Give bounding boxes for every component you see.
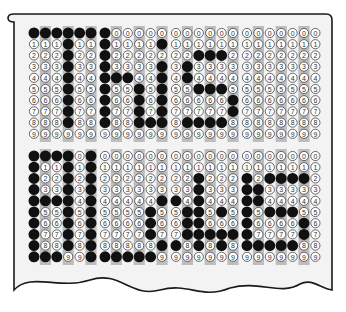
bubble-filled[interactable]	[135, 96, 144, 105]
bubble-filled[interactable]	[157, 107, 166, 116]
bubble-filled[interactable]	[100, 73, 109, 82]
bubble-filled[interactable]	[277, 241, 286, 250]
bubble-filled[interactable]	[265, 207, 274, 216]
bubble-filled[interactable]	[157, 196, 166, 205]
bubble-filled[interactable]	[277, 174, 286, 183]
bubble-filled[interactable]	[29, 241, 38, 250]
bubble-filled[interactable]	[217, 241, 226, 250]
bubble-filled[interactable]	[254, 196, 263, 205]
bubble-filled[interactable]	[194, 84, 203, 93]
bubble-filled[interactable]	[183, 62, 192, 71]
bubble-filled[interactable]	[183, 219, 192, 228]
bubble-filled[interactable]	[194, 219, 203, 228]
bubble-filled[interactable]	[100, 40, 109, 49]
bubble-filled[interactable]	[100, 62, 109, 71]
bubble-filled[interactable]	[100, 96, 109, 105]
bubble-filled[interactable]	[228, 230, 237, 239]
bubble-filled[interactable]	[86, 151, 95, 160]
bubble-filled[interactable]	[100, 118, 109, 127]
bubble-filled[interactable]	[146, 207, 155, 216]
bubble-filled[interactable]	[100, 28, 109, 37]
bubble-filled[interactable]	[41, 252, 50, 261]
bubble-filled[interactable]	[157, 96, 166, 105]
bubble-filled[interactable]	[64, 185, 73, 194]
bubble-filled[interactable]	[217, 207, 226, 216]
bubble-filled[interactable]	[194, 241, 203, 250]
bubble-filled[interactable]	[64, 107, 73, 116]
bubble-filled[interactable]	[41, 28, 50, 37]
bubble-filled[interactable]	[64, 73, 73, 82]
bubble-filled[interactable]	[183, 118, 192, 127]
bubble-filled[interactable]	[64, 174, 73, 183]
bubble-filled[interactable]	[135, 84, 144, 93]
bubble-filled[interactable]	[29, 163, 38, 172]
bubble-filled[interactable]	[41, 151, 50, 160]
bubble-filled[interactable]	[206, 84, 215, 93]
bubble-filled[interactable]	[52, 151, 61, 160]
bubble-filled[interactable]	[242, 219, 251, 228]
bubble-filled[interactable]	[183, 73, 192, 82]
bubble-filled[interactable]	[64, 40, 73, 49]
bubble-filled[interactable]	[64, 151, 73, 160]
bubble-filled[interactable]	[86, 207, 95, 216]
bubble-filled[interactable]	[299, 174, 308, 183]
bubble-filled[interactable]	[288, 207, 297, 216]
bubble-filled[interactable]	[206, 230, 215, 239]
bubble-filled[interactable]	[52, 28, 61, 37]
bubble-filled[interactable]	[64, 230, 73, 239]
bubble-filled[interactable]	[86, 219, 95, 228]
bubble-filled[interactable]	[135, 107, 144, 116]
bubble-filled[interactable]	[206, 51, 215, 60]
bubble-filled[interactable]	[146, 230, 155, 239]
bubble-filled[interactable]	[29, 28, 38, 37]
bubble-filled[interactable]	[217, 51, 226, 60]
bubble-filled[interactable]	[100, 252, 109, 261]
bubble-filled[interactable]	[29, 174, 38, 183]
bubble-filled[interactable]	[194, 230, 203, 239]
bubble-filled[interactable]	[86, 196, 95, 205]
bubble-filled[interactable]	[146, 118, 155, 127]
bubble-filled[interactable]	[299, 219, 308, 228]
bubble-filled[interactable]	[64, 163, 73, 172]
bubble-filled[interactable]	[64, 118, 73, 127]
bubble-filled[interactable]	[228, 96, 237, 105]
bubble-filled[interactable]	[242, 241, 251, 250]
bubble-filled[interactable]	[29, 207, 38, 216]
bubble-filled[interactable]	[157, 84, 166, 93]
bubble-filled[interactable]	[29, 219, 38, 228]
bubble-filled[interactable]	[64, 219, 73, 228]
bubble-filled[interactable]	[277, 207, 286, 216]
bubble-filled[interactable]	[254, 185, 263, 194]
bubble-filled[interactable]	[299, 230, 308, 239]
bubble-filled[interactable]	[86, 252, 95, 261]
bubble-filled[interactable]	[100, 107, 109, 116]
bubble-filled[interactable]	[64, 196, 73, 205]
bubble-filled[interactable]	[64, 28, 73, 37]
bubble-filled[interactable]	[64, 207, 73, 216]
bubble-filled[interactable]	[86, 230, 95, 239]
bubble-filled[interactable]	[288, 241, 297, 250]
bubble-filled[interactable]	[194, 185, 203, 194]
bubble-filled[interactable]	[86, 28, 95, 37]
bubble-filled[interactable]	[100, 84, 109, 93]
bubble-filled[interactable]	[157, 40, 166, 49]
bubble-filled[interactable]	[242, 207, 251, 216]
bubble-filled[interactable]	[64, 241, 73, 250]
bubble-filled[interactable]	[64, 51, 73, 60]
bubble-filled[interactable]	[157, 62, 166, 71]
bubble-filled[interactable]	[157, 118, 166, 127]
bubble-filled[interactable]	[217, 230, 226, 239]
bubble-filled[interactable]	[86, 185, 95, 194]
bubble-filled[interactable]	[135, 118, 144, 127]
bubble-filled[interactable]	[112, 73, 121, 82]
bubble-filled[interactable]	[123, 252, 132, 261]
bubble-filled[interactable]	[217, 84, 226, 93]
bubble-filled[interactable]	[64, 62, 73, 71]
bubble-filled[interactable]	[242, 185, 251, 194]
bubble-filled[interactable]	[123, 73, 132, 82]
bubble-filled[interactable]	[86, 163, 95, 172]
bubble-filled[interactable]	[194, 51, 203, 60]
bubble-filled[interactable]	[194, 174, 203, 183]
bubble-filled[interactable]	[228, 107, 237, 116]
bubble-filled[interactable]	[112, 252, 121, 261]
